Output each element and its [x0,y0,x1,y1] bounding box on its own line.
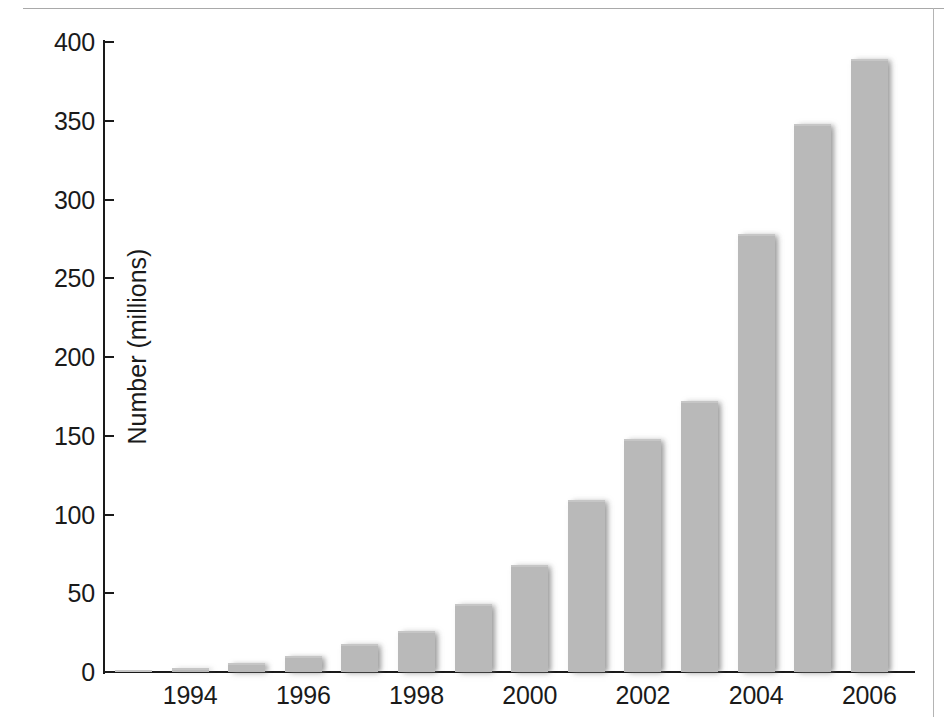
y-axis-tick-label: 250 [37,264,95,293]
bar-top-highlight [455,604,492,606]
bar [398,631,435,672]
x-axis-tick-label: 1998 [357,681,477,710]
bar-top-highlight [624,439,661,441]
y-axis-title: Number (millions) [123,197,152,497]
x-axis-tick-label: 2004 [696,681,816,710]
bar-top-highlight [681,401,718,403]
bar [624,439,661,672]
bar [851,59,888,672]
bar-top-highlight [285,656,322,658]
bar-top-highlight [172,668,209,670]
bar [738,234,775,672]
x-axis-tick-label: 1996 [243,681,363,710]
y-axis-tick-label: 200 [37,343,95,372]
bar [285,656,322,672]
plot-area: Number (millions) [103,42,933,672]
bar-top-highlight [228,663,265,665]
bar [228,663,265,672]
y-axis-tick-label: 100 [37,501,95,530]
x-axis-tick-label: 2002 [583,681,703,710]
y-axis-tick-label: 150 [37,422,95,451]
bar [341,644,378,672]
bar-top-highlight [398,631,435,633]
bar [681,401,718,672]
bar-top-highlight [738,234,775,236]
bar [511,565,548,672]
y-axis-tick-label: 350 [37,107,95,136]
y-axis-tick-label: 50 [37,579,95,608]
bar [172,668,209,672]
x-axis-tick-label: 2000 [470,681,590,710]
bar-top-highlight [794,124,831,126]
bar [455,604,492,672]
page-rule-right [933,8,934,717]
y-axis-tick-label: 400 [37,28,95,57]
bar [794,124,831,672]
bar-top-highlight [568,500,605,502]
x-axis-tick-label: 2006 [809,681,929,710]
bar-top-highlight [511,565,548,567]
page-rule-top [23,8,944,9]
bar-top-highlight [341,644,378,646]
bar-top-highlight [851,59,888,61]
bar [115,670,152,672]
bar-top-highlight [115,670,152,672]
y-axis-tick-label: 0 [37,658,95,687]
bar [568,500,605,672]
chart-figure: 050100150200250300350400 Number (million… [0,0,944,717]
x-axis-tick-label: 1994 [130,681,250,710]
y-axis-tick-label: 300 [37,186,95,215]
